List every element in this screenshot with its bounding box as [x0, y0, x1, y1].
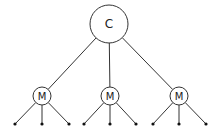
child-node-m1-label: M	[38, 91, 47, 102]
edge-root-to-m2	[109, 43, 110, 87]
leaf-node-dot	[204, 122, 207, 125]
child-node-m3: M	[170, 87, 188, 105]
child-node-m3-label: M	[175, 91, 184, 102]
child-node-m2-label: M	[106, 91, 115, 102]
edge-root-to-m3	[122, 38, 173, 90]
edge-m2-to-leaf1	[84, 103, 104, 124]
edges	[15, 38, 206, 124]
leaf-node-dot	[13, 122, 16, 125]
child-node-m1: M	[33, 87, 51, 105]
leaf-node-dot	[151, 122, 154, 125]
leaf-node-dot	[82, 122, 85, 125]
edge-m2-to-leaf3	[116, 103, 136, 124]
root-node-c: C	[90, 5, 128, 43]
edge-m3-to-leaf3	[185, 103, 206, 125]
child-node-m2: M	[101, 87, 119, 105]
edge-m3-to-leaf1	[153, 103, 173, 124]
leaf-node-dot	[40, 122, 43, 125]
leaf-node-dot	[108, 122, 111, 125]
tree-diagram: CMMM	[0, 0, 221, 136]
edge-m1-to-leaf1	[15, 103, 36, 125]
leaf-node-dot	[177, 122, 180, 125]
edge-m1-to-leaf3	[48, 103, 69, 125]
edge-root-to-m1	[48, 38, 96, 90]
root-node-c-label: C	[105, 17, 113, 31]
leaf-node-dot	[134, 122, 137, 125]
leaf-node-dot	[67, 122, 70, 125]
